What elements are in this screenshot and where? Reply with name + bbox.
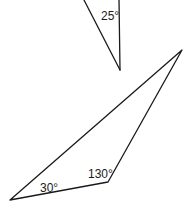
top-triangle: 25° [84,0,120,70]
bottom-triangle: 30° 130° [10,50,182,200]
angle-label-25: 25° [101,9,119,23]
angle-label-130: 130° [88,167,113,181]
triangle-diagram: 25° 30° 130° [0,0,190,208]
angle-label-30: 30° [40,181,58,195]
